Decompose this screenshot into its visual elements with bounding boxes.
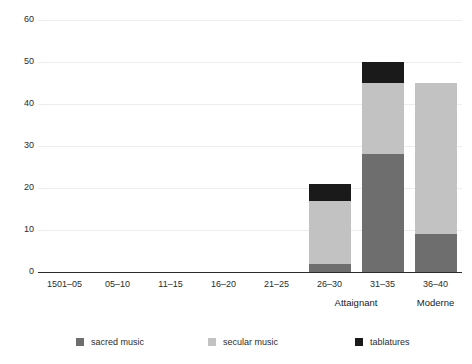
legend-item[interactable]: sacred music [76,336,144,348]
bar-group[interactable] [415,83,457,272]
stacked-bar-chart: 0102030405060 1501–0505–1011–1516–2021–2… [0,0,472,364]
y-tick-label: 50 [4,57,34,66]
bar-segment[interactable] [415,234,457,272]
x-tick-label: 16–20 [196,279,252,290]
y-tick-label: 10 [4,225,34,234]
bar-segment[interactable] [362,154,404,272]
legend-swatch-icon [355,338,363,346]
bar-group[interactable] [362,62,404,272]
x-tick-label: 1501–05 [37,279,93,290]
chart-legend: sacred musicsecular musictablatures [0,336,472,352]
group-annotation-label: Attaignant [316,297,396,309]
x-tick-label: 21–25 [249,279,305,290]
x-tick-label: 31–35 [355,279,411,290]
bar-segment[interactable] [362,62,404,83]
y-tick-label: 60 [4,15,34,24]
bars-layer [38,20,462,276]
y-tick-label: 30 [4,141,34,150]
y-axis: 0102030405060 [0,20,34,276]
y-tick-label: 0 [4,267,34,276]
legend-swatch-icon [76,338,84,346]
x-tick-label: 05–10 [90,279,146,290]
bar-segment[interactable] [362,83,404,154]
bar-stack [415,83,457,272]
group-annotation-label: Moderne [396,297,472,309]
legend-item[interactable]: secular music [208,336,278,348]
bar-segment[interactable] [309,264,351,272]
bar-segment[interactable] [415,83,457,234]
group-annotations: AttaignantModerne [38,297,462,311]
legend-item[interactable]: tablatures [355,336,410,348]
bar-segment[interactable] [309,201,351,264]
bar-group[interactable] [309,184,351,272]
legend-label: tablatures [370,336,410,348]
x-tick-label: 26–30 [302,279,358,290]
bar-segment[interactable] [309,184,351,201]
bar-stack [309,184,351,272]
legend-label: secular music [223,336,278,348]
y-tick-label: 40 [4,99,34,108]
bar-stack [362,62,404,272]
legend-label: sacred music [91,336,144,348]
x-tick-label: 11–15 [143,279,199,290]
legend-swatch-icon [208,338,216,346]
x-axis: 1501–0505–1011–1516–2021–2526–3031–3536–… [38,279,462,293]
y-tick-label: 20 [4,183,34,192]
x-tick-label: 36–40 [408,279,464,290]
